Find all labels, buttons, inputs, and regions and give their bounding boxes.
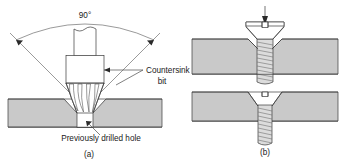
- callout-bit-label-line2: bit: [158, 77, 167, 86]
- previously-drilled-hole-void: [77, 113, 93, 128]
- flat-head-screw-seated-lower: [192, 92, 338, 145]
- upper-plate-left-section: [192, 39, 265, 74]
- bit-shank: [74, 27, 96, 56]
- figure-countersinking-diagram: 90° Countersink bit Previously drilled h…: [0, 0, 354, 162]
- upper-plate-right-section: [265, 39, 338, 74]
- bit-body: [66, 56, 104, 84]
- callout-bit-leader-diagonal: [116, 70, 143, 85]
- panel-b-caption: (b): [260, 148, 270, 157]
- panel-a-caption: (a): [84, 150, 94, 159]
- lower-screw-shank: [258, 105, 272, 145]
- angle-label: 90°: [79, 11, 91, 20]
- flat-head-screw-seated-upper: [192, 22, 338, 84]
- callout-bit-label-line1: Countersink: [146, 66, 191, 75]
- upper-screw-slot: [262, 22, 268, 28]
- callout-countersink-bit: [104, 68, 143, 86]
- callout-hole-label: Previously drilled hole: [61, 134, 141, 143]
- lower-screw-slot: [262, 92, 268, 97]
- callout-bit-arrowhead: [104, 68, 110, 73]
- diagram-canvas: 90° Countersink bit Previously drilled h…: [0, 0, 354, 162]
- upper-screw-shank: [257, 39, 273, 84]
